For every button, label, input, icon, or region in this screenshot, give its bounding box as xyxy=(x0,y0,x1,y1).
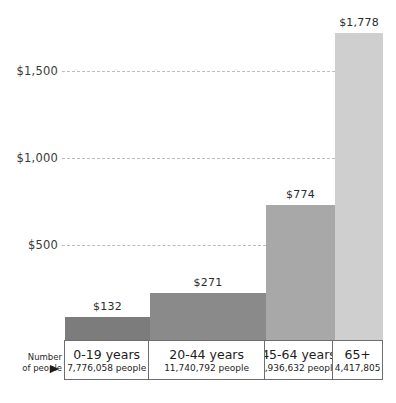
gridline-1500 xyxy=(62,71,335,72)
axis-group-label: 0-19 years xyxy=(73,347,140,363)
axis-count-label: 11,740,792 people xyxy=(164,363,249,374)
axis-cell-20-44-years: 20-44 years 11,740,792 people xyxy=(149,341,264,379)
bar-45-64-years xyxy=(266,205,335,340)
axis-group-label: 20-44 years xyxy=(169,347,244,363)
axis-group-label: 45-64 years xyxy=(265,347,334,363)
bar-label-45-64-years: $774 xyxy=(266,188,335,201)
axis-count-label: 8,936,632 people xyxy=(265,363,334,374)
y-tick-1000-label: $1,000 xyxy=(17,151,58,165)
plot-area: $1,500 $1,000 $500 $132 $271 $774 $1,778 xyxy=(0,0,396,340)
y-tick-1500-label: $1,500 xyxy=(17,64,58,78)
chart-container: $1,500 $1,000 $500 $132 $271 $774 $1,778… xyxy=(0,0,396,403)
bar-label-20-44-years: $271 xyxy=(150,276,266,289)
axis-cell-0-19-years: 0-19 years 7,776,058 people xyxy=(65,341,149,379)
arrow-right-icon xyxy=(50,365,59,373)
bar-0-19-years xyxy=(65,317,150,340)
axis-count-label: 7,776,058 people xyxy=(67,363,146,374)
axis-group-label: 65+ xyxy=(344,347,370,363)
y-tick-500-label: $500 xyxy=(28,238,58,252)
bar-20-44-years xyxy=(150,293,266,340)
bar-label-65-plus: $1,778 xyxy=(331,16,387,29)
annotation-line-1: Number xyxy=(8,352,62,363)
axis-table: 0-19 years 7,776,058 people 20-44 years … xyxy=(64,340,383,380)
bar-65-plus xyxy=(335,33,383,340)
gridline-500 xyxy=(62,245,266,246)
axis-cell-45-64-years: 45-64 years 8,936,632 people xyxy=(265,341,334,379)
axis-cell-65-plus: 65+ 4,417,805 xyxy=(333,341,382,379)
bar-label-0-19-years: $132 xyxy=(65,300,150,313)
axis-count-label: 4,417,805 xyxy=(335,363,381,374)
gridline-1000 xyxy=(62,158,335,159)
